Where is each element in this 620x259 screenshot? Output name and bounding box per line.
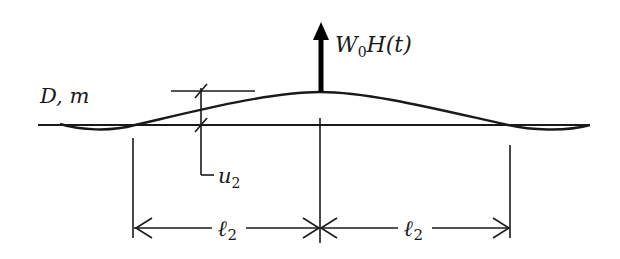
displacement-marker [171, 84, 255, 175]
beam-diagram: W0H(t) D, m u2 ℓ2 ℓ2 [0, 0, 620, 259]
displacement-label: u2 [218, 164, 240, 191]
beam-properties-label: D, m [39, 84, 89, 108]
right-span-label: ℓ2 [404, 215, 423, 244]
load-arrow-icon [313, 22, 329, 92]
deflection-curve [60, 92, 590, 130]
load-label: W0H(t) [335, 32, 412, 60]
left-span-label: ℓ2 [218, 215, 237, 244]
